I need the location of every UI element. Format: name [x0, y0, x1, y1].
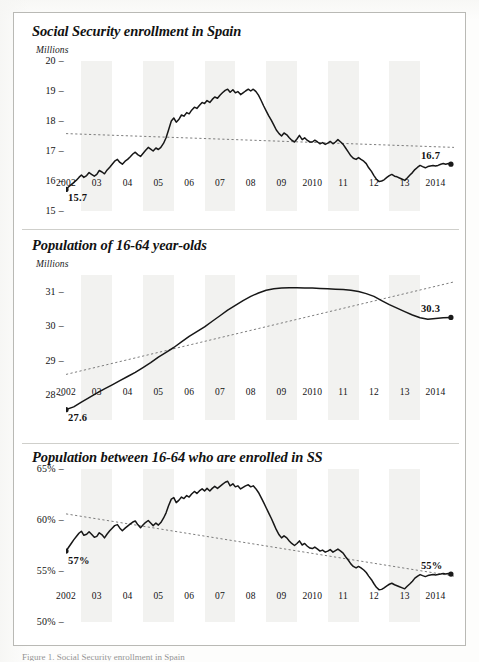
series-svg	[66, 61, 454, 211]
y-axis-tick: 29–	[45, 355, 64, 366]
end-value-label: 30.3	[421, 303, 440, 314]
y-axis-tick: 50%–	[37, 616, 64, 627]
figure-caption: Figure 1. Social Security enrollment in …	[22, 652, 185, 661]
series-line	[66, 481, 451, 590]
y-axis-tick: 18–	[45, 115, 64, 126]
end-value-label: 16.7	[421, 150, 440, 161]
start-value-label: 57%	[68, 555, 90, 566]
chart-title-2: Population between 16-64 who are enrolle…	[32, 449, 323, 466]
x-axis-tick: 2014	[416, 178, 456, 188]
panel-divider-2	[22, 443, 459, 444]
end-point-marker	[448, 162, 453, 167]
start-value-label: 15.7	[68, 192, 87, 203]
start-value-label: 27.6	[68, 412, 87, 423]
series-svg	[66, 275, 454, 420]
y-axis-tick: 30–	[45, 320, 64, 331]
trend-line	[66, 514, 454, 576]
plot-area-0	[66, 61, 454, 211]
y-axis-tick: 15–	[45, 205, 64, 216]
figure-frame: Social Security enrollment in Spain Mill…	[13, 12, 466, 646]
chart-unit-label-1: Millions	[36, 259, 68, 269]
trend-line	[66, 282, 454, 375]
y-axis-tick: 31–	[45, 286, 64, 297]
series-line	[66, 89, 451, 189]
end-value-label: 55%	[421, 560, 443, 571]
end-point-marker	[448, 571, 453, 576]
panel-divider-1	[22, 229, 459, 230]
chart-panel-population: Population of 16-64 year-olds Millions 3…	[14, 229, 467, 443]
end-point-marker	[448, 315, 453, 320]
x-axis-tick: 2014	[416, 387, 456, 397]
plot-area-1	[66, 275, 454, 420]
y-axis-tick: 17–	[45, 145, 64, 156]
chart-unit-label-0: Millions	[36, 45, 68, 55]
chart-title-0: Social Security enrollment in Spain	[32, 23, 241, 40]
chart-title-1: Population of 16-64 year-olds	[32, 237, 207, 254]
y-axis-tick: 19–	[45, 85, 64, 96]
y-axis-tick: 20–	[45, 55, 64, 66]
start-point-marker	[66, 549, 69, 554]
x-axis-tick: 2014	[416, 591, 456, 601]
y-axis-tick: 60%–	[37, 514, 64, 525]
chart-panel-enrollment: Social Security enrollment in Spain Mill…	[14, 13, 467, 229]
y-axis-tick: 65%–	[37, 463, 64, 474]
y-axis-tick: 55%–	[37, 565, 64, 576]
trend-line	[66, 134, 454, 148]
chart-panel-share: Population between 16-64 who are enrolle…	[14, 443, 467, 647]
